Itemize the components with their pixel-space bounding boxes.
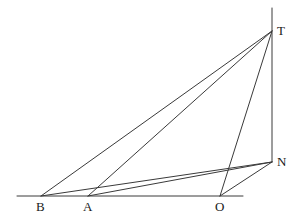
- segment-A-to-N: [88, 162, 272, 196]
- geometry-figure: BAONT: [0, 0, 300, 223]
- segment-group: [17, 8, 272, 196]
- vertex-label-t: T: [277, 24, 285, 37]
- vertex-label-b: B: [36, 200, 45, 213]
- segment-A-to-T: [88, 31, 272, 196]
- vertex-label-o: O: [215, 200, 224, 213]
- geometry-canvas: [0, 0, 300, 223]
- segment-B-to-T: [41, 31, 272, 196]
- segment-B-to-N: [41, 162, 272, 196]
- vertex-label-a: A: [83, 200, 92, 213]
- segment-O-to-T: [220, 31, 272, 196]
- vertex-label-n: N: [277, 155, 286, 168]
